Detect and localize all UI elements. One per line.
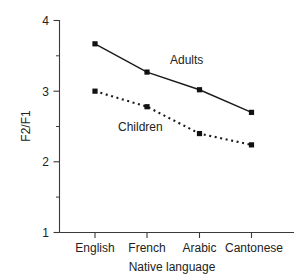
x-label-french: French — [128, 241, 165, 255]
chart-container: 4 3 2 1 F2/F1 English French Arabic Cant… — [0, 0, 303, 279]
data-point-children-cantonese — [249, 142, 254, 147]
y-tick-label-1: 1 — [42, 226, 49, 240]
x-axis-title: Native language — [129, 260, 216, 274]
y-tick-label-4: 4 — [42, 14, 49, 28]
series-label-adults: Adults — [170, 53, 203, 67]
data-point-adults-arabic — [197, 87, 202, 92]
series-label-children: Children — [118, 120, 163, 134]
line-chart: 4 3 2 1 F2/F1 English French Arabic Cant… — [0, 0, 303, 279]
data-point-adults-cantonese — [249, 110, 254, 115]
series-line-children — [95, 91, 252, 145]
data-point-children-arabic — [197, 131, 202, 136]
x-label-cantonese: Cantonese — [225, 241, 283, 255]
y-tick-label-3: 3 — [42, 85, 49, 99]
x-label-arabic: Arabic — [182, 241, 216, 255]
data-point-children-french — [144, 104, 149, 109]
data-point-adults-french — [144, 69, 149, 74]
data-point-adults-english — [92, 41, 97, 46]
x-label-english: English — [75, 241, 114, 255]
data-point-children-english — [92, 89, 97, 94]
y-tick-label-2: 2 — [42, 155, 49, 169]
y-axis-title: F2/F1 — [19, 110, 33, 142]
